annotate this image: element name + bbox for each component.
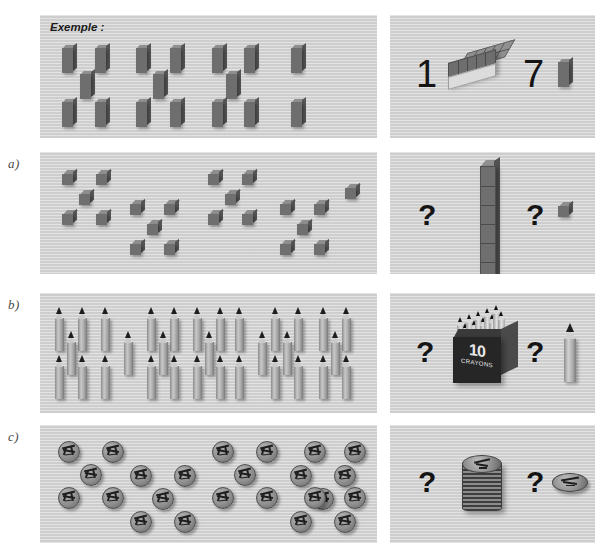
row-a-left-panel: [40, 152, 377, 274]
row-b-pencil-extra: [257, 331, 268, 376]
row-c-coin: [234, 464, 256, 486]
row-b-pencil: [54, 307, 65, 352]
row-b-pencil: [318, 355, 329, 400]
row-b-label: b): [8, 297, 36, 313]
row-a-cube: [96, 170, 112, 186]
example-block: [244, 99, 261, 129]
row-c-tens-question: ?: [418, 467, 436, 497]
row-c-coin: [212, 487, 234, 509]
example-units-numeral: 7: [523, 55, 544, 93]
row-a-cube: [314, 200, 330, 216]
row-a-cube: [130, 240, 146, 256]
row-b-pencil: [54, 355, 65, 400]
row-b-pencil: [158, 331, 169, 376]
row-b-pencil: [146, 355, 157, 400]
row-b-pencil: [341, 355, 352, 400]
example-caption: Exemple :: [50, 21, 104, 33]
row-a-tens-question: ?: [418, 200, 436, 230]
row-c-coin: [256, 487, 278, 509]
row-b-pencil-extra: [234, 307, 245, 352]
example-block: [95, 45, 112, 75]
row-c-left-panel: [40, 425, 377, 543]
row-b-pencil: [192, 307, 203, 352]
row-b-pencil: [66, 331, 77, 376]
row-c-coin-extra: [304, 441, 326, 463]
row-c-coin: [58, 487, 80, 509]
row-b-pencil: [270, 355, 281, 400]
example-unit-cube-icon: [558, 59, 575, 89]
row-a-cube: [147, 220, 163, 236]
example-block: [136, 45, 153, 75]
row-b-right-panel: ? 10 CRAYONS ?: [390, 293, 595, 413]
row-b-left-panel: [40, 293, 377, 413]
row-c-coin: [130, 511, 152, 533]
row-a-cube: [297, 220, 313, 236]
row-c-coin-extra: [344, 487, 366, 509]
example-right-panel: 1 7: [390, 15, 595, 138]
row-b-pencil: [318, 307, 329, 352]
row-b-pencil: [169, 307, 180, 352]
example-block: [244, 45, 261, 75]
row-b-pencil: [192, 355, 203, 400]
row-a-unit-cube-icon: [558, 202, 574, 218]
row-a-cube: [79, 190, 95, 206]
row-c-coin: [102, 441, 124, 463]
row-a-cube: [130, 200, 146, 216]
example-block: [170, 99, 187, 129]
row-b-pencil: [77, 355, 88, 400]
example-block: [212, 99, 229, 129]
row-b-crayon-box-icon: 10 CRAYONS: [453, 309, 525, 387]
row-a-cube: [225, 190, 241, 206]
row-c-coin: [152, 488, 174, 510]
row-a-cube: [62, 170, 78, 186]
row-c-unit-coin-icon: [552, 473, 588, 495]
row-a-cube: [314, 240, 330, 256]
example-block: [153, 71, 170, 101]
row-a-right-panel: ? ?: [390, 152, 595, 274]
example-block: [291, 99, 308, 129]
row-a: a) ? ?: [0, 152, 605, 274]
row-a-cube: [280, 240, 296, 256]
tower-face: [480, 166, 496, 274]
row-c-coin: [256, 441, 278, 463]
row-b-pencil: [293, 307, 304, 352]
example-block: [62, 45, 79, 75]
row-b-pencil-extra: [100, 355, 111, 400]
example-block: [136, 99, 153, 129]
row-a-cube: [242, 210, 258, 226]
row-b-pencil: [215, 307, 226, 352]
row-b-pencil: [330, 331, 341, 376]
crayon-box-side: [501, 321, 518, 375]
example-block: [62, 99, 79, 129]
row-b-pencil-extra: [100, 307, 111, 352]
row-a-cube: [208, 170, 224, 186]
row-b-pencil: [282, 331, 293, 376]
example-ten-bar-icon: [448, 47, 510, 93]
row-a-cube-extra: [345, 184, 361, 200]
row-a-ten-tower-icon: [480, 160, 502, 274]
row-c-coin: [334, 511, 356, 533]
row-a-cube: [208, 210, 224, 226]
row-a-cube: [280, 200, 296, 216]
row-b-pencil: [77, 307, 88, 352]
row-a-cube: [164, 200, 180, 216]
row-c-coin: [290, 465, 312, 487]
row-c-coin: [80, 464, 102, 486]
example-block: [291, 45, 308, 75]
example-block: [95, 99, 112, 129]
example-block: [170, 45, 187, 75]
row-b-pencil: [146, 307, 157, 352]
row-c-coin: [174, 465, 196, 487]
row-a-label: a): [8, 156, 36, 172]
row-b-pencil: [293, 355, 304, 400]
example-block: [80, 71, 97, 101]
example-tens-numeral: 1: [416, 55, 437, 93]
row-b-unit-pencil-icon: [562, 323, 577, 383]
example-block: [226, 71, 243, 101]
row-b-pencil: [204, 331, 215, 376]
row-b-pencil-extra: [234, 355, 245, 400]
row-c-coin-stack-icon: [458, 451, 506, 521]
row-c-coin: [212, 441, 234, 463]
row-example: Exemple : 1 7: [0, 15, 605, 138]
row-c-coin: [58, 441, 80, 463]
